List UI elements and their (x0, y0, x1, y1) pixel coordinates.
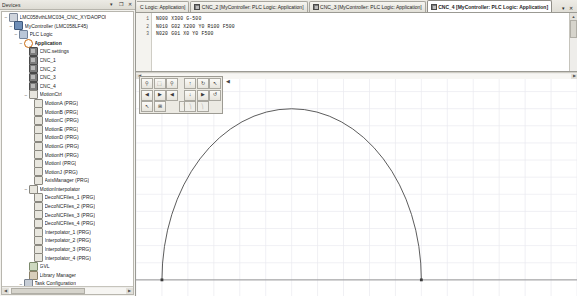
editor-tab[interactable]: C Logic: Application] (137, 1, 189, 12)
tree-node[interactable]: −PLC Logic (3, 30, 133, 39)
zoom-fit-button[interactable]: ⬚ (154, 78, 166, 89)
tree-node[interactable]: ·MotionA (PRG) (3, 99, 133, 108)
pan-down-button[interactable]: ↓ (184, 90, 196, 101)
tree-node[interactable]: ·DecoNCFiles_3 (PRG) (3, 211, 133, 220)
tree-node[interactable]: −MotionCtrl (3, 90, 133, 99)
tree-node-label: CNC_3 (40, 73, 56, 82)
tree-node[interactable]: ·Library Manager (3, 271, 133, 280)
tree-node[interactable]: ·MotionI (PRG) (3, 159, 133, 168)
tree-node[interactable]: ·Interpolator_3 (PRG) (3, 245, 133, 254)
tree-node[interactable]: −Application (3, 39, 133, 48)
gcode-text-area[interactable]: N000 X300 G-500N010 G02 X200 Y0 R100 F50… (152, 13, 577, 71)
hscroll-right-arrow[interactable]: ▶ (126, 288, 133, 294)
hscroll-thumb[interactable] (11, 288, 85, 294)
tree-node-label: Interpolator_1 (PRG) (45, 228, 91, 237)
gcode-editor-pane[interactable]: 123 N000 X300 G-500N010 G02 X200 Y0 R100… (136, 13, 577, 72)
tree-node[interactable]: ·DecoNCFiles_2 (PRG) (3, 202, 133, 211)
devices-panel-buttons: ▾ ❐ ✕ (108, 1, 133, 8)
tab-list-button[interactable]: ▾ (560, 5, 566, 11)
prgm-icon (34, 107, 43, 116)
graph-hscroll-right-arrow[interactable]: ▶ (571, 74, 577, 79)
prgm-icon (34, 176, 43, 185)
zoom-out-button[interactable]: ⚲ (141, 78, 153, 89)
plc-icon (19, 30, 28, 39)
pan-left-button[interactable]: ◀ (141, 90, 153, 101)
editor-tab[interactable]: CNC_2 [MyController: PLC Logic: Applicat… (190, 1, 307, 12)
tree-node[interactable]: ·GVL (3, 262, 133, 271)
hscroll-track[interactable] (9, 288, 126, 294)
gcode-line[interactable]: N020 G01 X0 Y0 F500 (156, 30, 577, 38)
prgm-icon (34, 150, 43, 159)
code-vscrollbar[interactable]: ▲ (569, 13, 577, 71)
grid-toggle-button[interactable]: ⊞ (154, 101, 166, 112)
tab-close-button[interactable]: ✕ (568, 5, 574, 11)
tree-node-label: MotionI (PRG) (45, 159, 77, 168)
line-number: 1 (136, 15, 151, 23)
reset-view-button[interactable]: ↺ (209, 90, 221, 101)
tree-node[interactable]: ·CNC_2 (3, 65, 133, 74)
tree-node[interactable]: ·MotionG (PRG) (3, 142, 133, 151)
tree-node-label: CNC.settings (40, 47, 69, 56)
tree-node[interactable]: ·MotionJ (PRG) (3, 168, 133, 177)
select-tool-button[interactable]: ↖ (209, 78, 221, 89)
editor-tab[interactable]: CNC_3 [MyController: PLC Logic: Applicat… (309, 1, 426, 12)
tree-node-label: MotionInterpolator (40, 185, 80, 194)
tree-node[interactable]: −MyController (LMC058LF45) (3, 22, 133, 31)
code-scroll-up-arrow[interactable]: ▲ (570, 13, 577, 20)
zoom-in-button[interactable]: ⚲ (166, 78, 178, 89)
tree-node-label: MotionH (PRG) (45, 151, 79, 160)
toolbar-group-gap (179, 78, 184, 89)
tree-node[interactable]: −LMC058vthLMC034_CNC_XYDAOPOI (3, 13, 133, 22)
step-forward-button[interactable]: ▶ (197, 90, 209, 101)
tree-node[interactable]: ·Interpolator_4 (PRG) (3, 254, 133, 263)
hscroll-left-arrow[interactable]: ◀ (2, 288, 9, 294)
gcode-line[interactable]: N010 G02 X200 Y0 R100 F500 (156, 23, 577, 31)
pan-right-button[interactable]: ▶ (154, 90, 166, 101)
device-tree: −LMC058vthLMC034_CNC_XYDAOPOI−MyControll… (2, 12, 133, 295)
tree-node[interactable]: ·MotionE (PRG) (3, 125, 133, 134)
step-back-button[interactable]: ◀ (166, 90, 178, 101)
pan-up-button[interactable]: ↑ (184, 78, 196, 89)
tree-node[interactable]: ·MotionH (PRG) (3, 151, 133, 160)
toolpath-endpoint-marker (161, 278, 164, 281)
device-tree-container[interactable]: −LMC058vthLMC034_CNC_XYDAOPOI−MyControll… (1, 11, 134, 295)
panel-float-button[interactable]: ❐ (117, 1, 124, 8)
tree-node-label: MotionC (PRG) (45, 116, 79, 125)
panel-close-button[interactable]: ✕ (126, 1, 133, 8)
cnc-icon (29, 73, 38, 82)
tree-node[interactable]: ·MotionC (PRG) (3, 116, 133, 125)
tree-node-label: MotionA (PRG) (45, 99, 79, 108)
axis-z-button: ⎞ (197, 101, 209, 112)
toolpath-graph-pane[interactable]: ◀ ▶ ◀ ⚲⬚⚲↑↻↖◀▶◀↓▶↺↖⊞⎞⎞⎞ (136, 72, 577, 296)
tree-node-label: CNC_1 (40, 56, 56, 65)
rotate-view-button[interactable]: ↻ (197, 78, 209, 89)
tree-node-label: GVL (40, 262, 50, 271)
zoom-fit-icon: ⬚ (157, 81, 162, 86)
tree-node[interactable]: ·DecoNCFiles_1 (PRG) (3, 193, 133, 202)
tabstrip-controls: ▾✕ (558, 5, 577, 12)
line-number-gutter: 123 (136, 13, 152, 71)
tree-node[interactable]: ·MotionB (PRG) (3, 108, 133, 117)
gcode-line[interactable]: N000 X300 G-500 (156, 15, 577, 23)
cnc-icon (29, 47, 38, 56)
tree-node[interactable]: ·MotionD (PRG) (3, 133, 133, 142)
tree-node[interactable]: ·CNC.settings (3, 47, 133, 56)
tree-node-label: MotionJ (PRG) (45, 168, 78, 177)
tree-node[interactable]: ·CNC_4 (3, 82, 133, 91)
tree-node[interactable]: −MotionInterpolator (3, 185, 133, 194)
measure-tool-button[interactable]: ↖ (141, 101, 153, 112)
tree-node[interactable]: ·AxisManager (PRG) (3, 176, 133, 185)
tree-node[interactable]: ·CNC_1 (3, 56, 133, 65)
tree-node-label: MotionD (PRG) (45, 133, 79, 142)
tree-node[interactable]: ·CNC_3 (3, 73, 133, 82)
panel-pin-button[interactable]: ▾ (108, 1, 115, 8)
code-scroll-thumb[interactable] (570, 20, 577, 38)
editor-tab-active[interactable]: CNC_4 [MyController: PLC Logic: Applicat… (427, 0, 552, 12)
tree-node[interactable]: ·Interpolator_2 (PRG) (3, 236, 133, 245)
measure-tool-icon: ↖ (145, 104, 149, 109)
device-tree-hscrollbar[interactable]: ◀ ▶ (2, 286, 133, 294)
tree-node[interactable]: ·DecoNCFiles_4 (PRG) (3, 219, 133, 228)
editor-tabstrip: C Logic: Application]CNC_2 [MyController… (136, 0, 577, 13)
toolbar-collapse-button[interactable]: ◀ (226, 78, 230, 84)
tree-node[interactable]: ·Interpolator_1 (PRG) (3, 228, 133, 237)
